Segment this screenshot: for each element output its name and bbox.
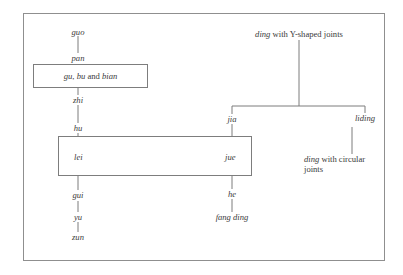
label-hu: hu — [74, 123, 83, 133]
root-description: with Y-shaped joints — [270, 29, 342, 39]
label-liding: liding — [355, 113, 375, 123]
label-guo: guo — [72, 27, 85, 37]
label-yu: yu — [74, 212, 82, 222]
label-jue: jue — [225, 152, 236, 162]
label-gui: gui — [73, 190, 84, 200]
term-bian: bian — [102, 71, 117, 81]
conjunction: and — [85, 71, 102, 81]
label-fang-ding: fang ding — [216, 212, 249, 222]
term-ding: ding — [255, 29, 270, 39]
label-ding-y-shaped: ding with Y-shaped joints — [255, 29, 343, 39]
box-gu-bu-bian-label: gu, bu and bian — [34, 71, 147, 81]
label-he: he — [228, 189, 236, 199]
label-pan: pan — [72, 53, 85, 63]
box-lei-jue: lei jue — [58, 136, 252, 176]
leaf-description-line2: joints — [304, 164, 323, 174]
leaf-description: with circular — [319, 154, 365, 164]
term-bu: bu — [77, 71, 86, 81]
label-jia: jia — [227, 114, 236, 124]
label-zhi: zhi — [73, 95, 83, 105]
term-ding-circular: ding — [304, 154, 319, 164]
label-zun: zun — [72, 232, 84, 242]
classification-diagram: guo pan gu, bu and bian zhi hu lei jue g… — [0, 0, 403, 275]
label-ding-circular: ding with circular joints — [304, 155, 365, 174]
box-gu-bu-bian: gu, bu and bian — [33, 64, 148, 88]
label-lei: lei — [74, 152, 83, 162]
